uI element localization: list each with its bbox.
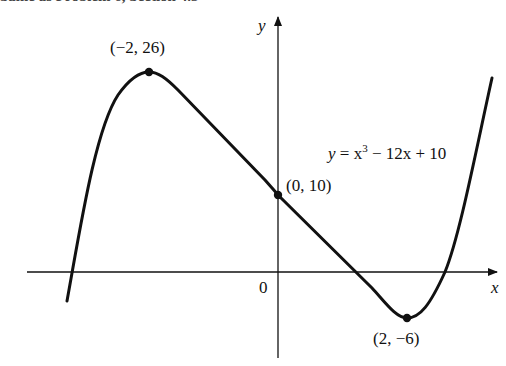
point-local-min (403, 314, 411, 322)
label-y-intercept: (0, 10) (286, 176, 331, 196)
x-axis-label: x (491, 278, 499, 298)
equation-y: y (328, 144, 336, 163)
equation-tail: − 12x + 10 (368, 144, 447, 163)
equation-eq: = x (336, 144, 363, 163)
label-local-min: (2, −6) (373, 329, 419, 349)
y-axis-label: y (258, 16, 266, 36)
label-local-max: (−2, 26) (110, 38, 165, 58)
cubic-graph (0, 0, 506, 366)
equation-label: y = x3 − 12x + 10 (328, 142, 446, 164)
origin-label: 0 (259, 278, 268, 298)
point-y-intercept (274, 191, 282, 199)
point-local-max (145, 68, 153, 76)
